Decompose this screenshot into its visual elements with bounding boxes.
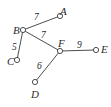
node-label-b: B (13, 25, 20, 36)
edge-weight-b-c: 5 (12, 43, 17, 53)
graph-edge-b-a (23, 16, 60, 30)
node-label-d: D (31, 89, 39, 100)
weighted-graph-figure: 75769ABCDEF (0, 0, 111, 107)
node-label-e: E (101, 44, 108, 55)
graph-node-b[interactable] (20, 27, 25, 32)
graph-node-d[interactable] (32, 79, 37, 84)
edge-weight-b-f: 7 (41, 31, 46, 41)
graph-canvas (0, 0, 111, 107)
edge-weight-f-d: 6 (37, 62, 42, 72)
node-label-c: C (7, 56, 14, 67)
node-label-f: F (58, 38, 65, 49)
graph-edges (17, 16, 96, 82)
graph-node-c[interactable] (14, 57, 19, 62)
graph-node-e[interactable] (93, 47, 98, 52)
graph-node-f[interactable] (57, 48, 62, 53)
edge-weight-b-a: 7 (34, 13, 39, 23)
edge-weight-f-e: 9 (77, 41, 82, 51)
node-label-a: A (60, 6, 67, 17)
